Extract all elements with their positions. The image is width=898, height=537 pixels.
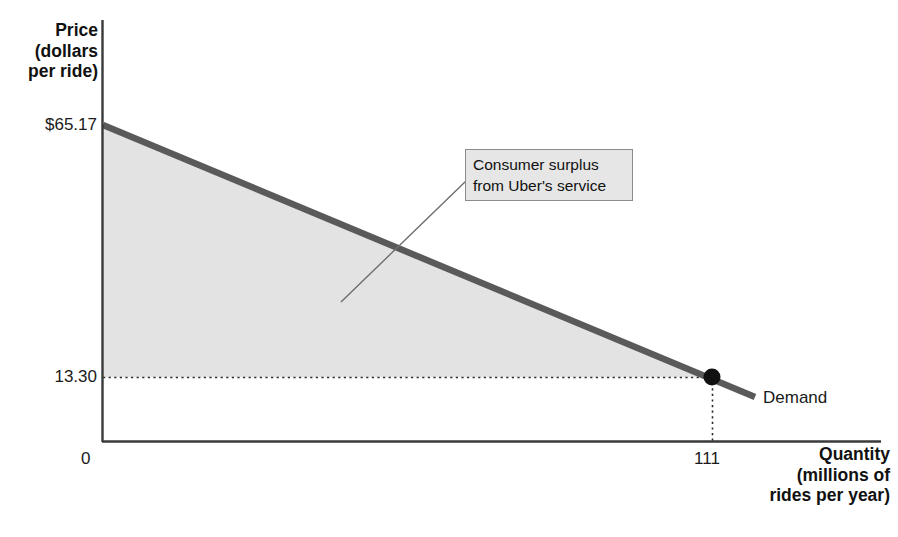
annotation-line-1: Consumer surplus <box>473 154 625 175</box>
y-axis-title-line-2: (dollars <box>28 41 98 62</box>
y-axis-title-line-3: per ride) <box>28 61 98 82</box>
equilibrium-point <box>704 369 721 386</box>
x-tick-label-quantity: 111 <box>694 449 720 469</box>
annotation-line-2: from Uber's service <box>473 175 625 196</box>
consumer-surplus-annotation: Consumer surplus from Uber's service <box>465 149 633 201</box>
x-axis-title-line-3: rides per year) <box>769 485 890 506</box>
demand-curve-label: Demand <box>763 388 827 408</box>
consumer-surplus-chart: Price (dollars per ride) Quantity (milli… <box>0 0 898 537</box>
y-axis-title-line-1: Price <box>28 20 98 41</box>
y-tick-label-low: 13.30 <box>54 367 97 387</box>
x-axis-title-line-1: Quantity <box>769 444 890 465</box>
y-axis-title: Price (dollars per ride) <box>28 20 98 82</box>
x-tick-label-origin: 0 <box>81 449 90 469</box>
x-axis-title-line-2: (millions of <box>769 465 890 486</box>
x-axis-title: Quantity (millions of rides per year) <box>769 444 890 506</box>
y-tick-label-high: $65.17 <box>45 115 97 135</box>
chart-plot-area <box>0 0 898 537</box>
